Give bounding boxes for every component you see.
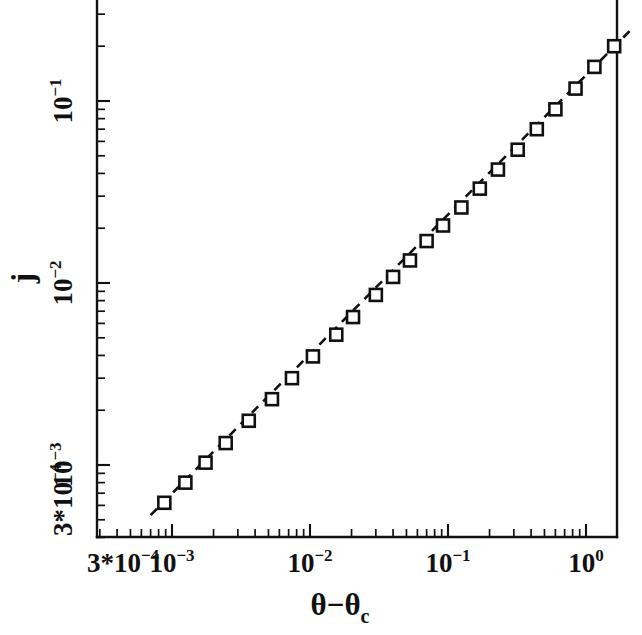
data-point-marker <box>243 415 255 427</box>
loglog-scatter-plot: 3*10−410−310−210−1100 10−310−210−1 3*10−… <box>0 0 642 635</box>
data-point-marker <box>549 103 561 115</box>
data-point-marker <box>347 311 359 323</box>
data-point-marker <box>437 219 449 231</box>
tick-label-mantissa: 10 <box>287 548 314 578</box>
data-point-marker <box>370 289 382 301</box>
data-point-marker <box>307 350 319 362</box>
data-point-marker <box>179 477 191 489</box>
data-point-marker <box>330 329 342 341</box>
data-point-marker <box>531 123 543 135</box>
tick-label-mantissa: 3*10 <box>48 482 78 536</box>
tick-label-exponent: −4 <box>46 463 65 482</box>
data-point-marker <box>266 393 278 405</box>
tick-label: 10−1 <box>46 78 78 123</box>
tick-label-exponent: −2 <box>46 260 65 278</box>
data-point-marker <box>387 271 399 283</box>
tick-label-mantissa: 10 <box>48 279 78 306</box>
tick-label: 100 <box>568 546 604 578</box>
x-axis-title: θ−θc <box>311 587 370 627</box>
tick-label: 10−2 <box>46 260 78 305</box>
data-point-marker <box>492 164 504 176</box>
tick-label-exponent: −1 <box>452 546 470 565</box>
data-point-marker <box>455 201 467 213</box>
data-point-marker <box>570 83 582 95</box>
y-axis-ticks <box>97 14 110 537</box>
data-point-marker <box>421 235 433 247</box>
tick-label-exponent: 0 <box>595 546 604 565</box>
tick-label-mantissa: 10 <box>568 548 595 578</box>
tick-label-mantissa: 10 <box>48 97 78 124</box>
tick-label: 10−2 <box>287 546 332 578</box>
data-point-marker <box>158 497 170 509</box>
data-point-marker <box>220 437 232 449</box>
data-point-marker <box>404 254 416 266</box>
x-axis-ticks <box>100 524 586 537</box>
data-markers <box>158 40 620 509</box>
data-point-marker <box>512 144 524 156</box>
axis-frame <box>97 0 617 537</box>
y-axis-tick-labels: 10−310−210−1 <box>46 78 78 487</box>
tick-label-exponent: −3 <box>176 546 194 565</box>
x-axis-title-subscript: c <box>361 605 370 627</box>
data-point-marker <box>286 372 298 384</box>
tick-label-exponent: −2 <box>314 546 332 565</box>
figure-container: 3*10−410−310−210−1100 10−310−210−1 3*10−… <box>0 0 642 635</box>
tick-label-exponent: −1 <box>46 78 65 96</box>
tick-label: 10−1 <box>425 546 470 578</box>
y-axis-title: j <box>5 273 40 284</box>
tick-label-exponent: −3 <box>46 442 65 460</box>
data-point-marker <box>588 61 600 73</box>
tick-label: 10−3 <box>149 546 194 578</box>
x-axis-title-main: θ−θ <box>311 587 361 622</box>
tick-label-mantissa: 10 <box>149 548 176 578</box>
tick-label-mantissa: 10 <box>425 548 452 578</box>
data-point-marker <box>608 40 620 52</box>
tick-label-mantissa: 3*10 <box>87 548 141 578</box>
data-point-marker <box>474 183 486 195</box>
data-point-marker <box>200 457 212 469</box>
x-axis-tick-labels: 3*10−410−310−210−1100 <box>87 546 604 578</box>
